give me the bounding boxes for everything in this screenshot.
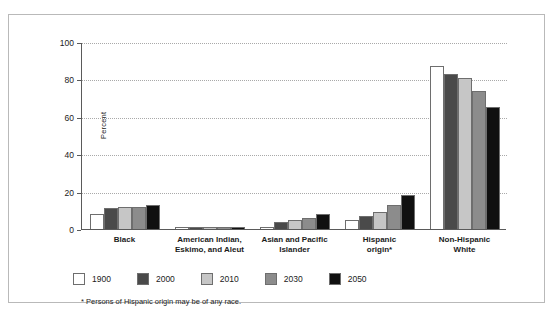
bar [260, 227, 274, 229]
y-tick-label: 60 [65, 113, 74, 123]
bar [345, 220, 359, 229]
bar [373, 212, 387, 229]
y-tick-label: 80 [65, 75, 74, 85]
bar-group: American Indian,Eskimo, and Aleut [167, 42, 252, 229]
bar [132, 207, 146, 229]
legend-label: 2000 [156, 274, 175, 284]
x-axis-category-label: Hispanicorigin* [363, 235, 396, 254]
y-tick-label: 20 [65, 188, 74, 198]
bar [430, 66, 444, 229]
y-tick-label: 0 [69, 225, 74, 235]
x-axis-category-label: Asian and PacificIslander [261, 235, 327, 254]
legend-swatch-icon [73, 273, 85, 285]
legend-swatch-icon [329, 273, 341, 285]
legend-label: 2010 [220, 274, 239, 284]
bar [458, 78, 472, 229]
legend-swatch-icon [265, 273, 277, 285]
bar [203, 227, 217, 229]
bar [175, 227, 189, 229]
plot-area: BlackAmerican Indian,Eskimo, and AleutAs… [81, 43, 506, 230]
bar [231, 227, 245, 229]
legend-swatch-icon [201, 273, 213, 285]
bar [90, 214, 104, 229]
y-tick-label: 100 [60, 38, 74, 48]
legend-item[interactable]: 2010 [201, 273, 239, 285]
bar [401, 195, 415, 229]
chart-legend: 19002000201020302050 [73, 273, 393, 285]
legend-label: 1900 [92, 274, 111, 284]
bar [146, 205, 160, 229]
bar-group: Hispanicorigin* [337, 42, 422, 229]
y-tick-mark [77, 193, 81, 194]
footnote-text: * Persons of Hispanic origin may be of a… [81, 297, 241, 306]
bar [387, 205, 401, 229]
bar-group: Asian and PacificIslander [252, 42, 337, 229]
legend-item[interactable]: 2050 [329, 273, 367, 285]
legend-item[interactable]: 2000 [137, 273, 175, 285]
bar-group: Black [82, 42, 167, 229]
bar [316, 214, 330, 229]
bar [217, 227, 231, 229]
bar [189, 227, 203, 229]
x-axis-category-label: Black [114, 235, 135, 245]
bar [302, 218, 316, 229]
bar [486, 107, 500, 229]
x-axis-category-label: American Indian,Eskimo, and Aleut [175, 235, 244, 254]
bar [104, 208, 118, 229]
bar-group: Non-HispanicWhite [422, 42, 507, 229]
bar [472, 91, 486, 229]
y-tick-mark [77, 155, 81, 156]
y-tick-label: 40 [65, 150, 74, 160]
legend-label: 2050 [348, 274, 367, 284]
chart-frame: Percent BlackAmerican Indian,Eskimo, and… [8, 14, 545, 303]
x-axis-category-label: Non-HispanicWhite [439, 235, 491, 254]
y-tick-mark [77, 43, 81, 44]
legend-item[interactable]: 2030 [265, 273, 303, 285]
legend-label: 2030 [284, 274, 303, 284]
legend-item[interactable]: 1900 [73, 273, 111, 285]
y-tick-mark [77, 118, 81, 119]
y-tick-mark [77, 80, 81, 81]
y-tick-mark [77, 230, 81, 231]
bar [118, 207, 132, 229]
bar [359, 216, 373, 229]
bar [288, 220, 302, 229]
chart-plot: Percent BlackAmerican Indian,Eskimo, and… [81, 43, 506, 244]
legend-swatch-icon [137, 273, 149, 285]
bar [444, 74, 458, 229]
bar [274, 222, 288, 229]
